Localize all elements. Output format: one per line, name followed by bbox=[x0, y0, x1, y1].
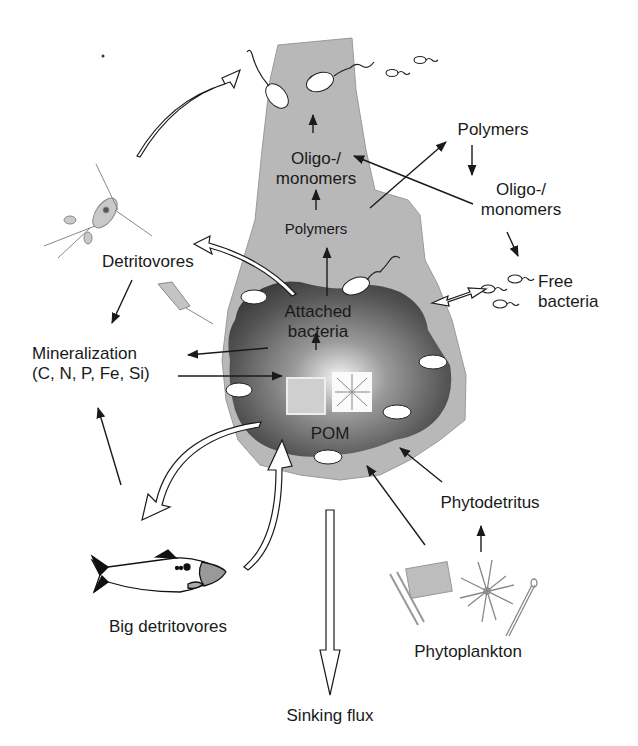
mineralization-line1: Mineralization bbox=[32, 344, 150, 364]
free-bacteria-label: Free bacteria bbox=[538, 272, 598, 312]
pom-label: POM bbox=[311, 424, 350, 444]
attached-line1: Attached bbox=[284, 302, 351, 322]
detritovores-label: Detritovores bbox=[102, 252, 194, 272]
right-oligo-line1: Oligo-/ bbox=[481, 180, 561, 200]
copepod-icon bbox=[44, 164, 152, 258]
plume-oligo-line1: Oligo-/ bbox=[276, 149, 356, 169]
right-polymers-label: Polymers bbox=[458, 120, 529, 140]
free-bacteria-line2: bacteria bbox=[538, 292, 598, 312]
marine-snow-diagram: Oligo-/ monomers Polymers Polymers Oligo… bbox=[0, 0, 638, 746]
right-oligo-line2: monomers bbox=[481, 200, 561, 220]
attached-line2: bacteria bbox=[284, 322, 351, 342]
tintinnid-icon bbox=[158, 282, 213, 324]
phytodetritus-label: Phytodetritus bbox=[440, 493, 539, 513]
mineralization-line2: (C, N, P, Fe, Si) bbox=[32, 364, 150, 384]
right-oligo-label: Oligo-/ monomers bbox=[481, 180, 561, 220]
star-diatom-icon bbox=[460, 560, 514, 622]
mineralization-label: Mineralization (C, N, P, Fe, Si) bbox=[32, 344, 150, 384]
plume-oligo-line2: monomers bbox=[276, 169, 356, 189]
big-detritovores-label: Big detritovores bbox=[109, 617, 227, 637]
phytoplankton-label: Phytoplankton bbox=[414, 642, 522, 662]
fish-icon bbox=[92, 550, 226, 592]
attached-bacteria-label: Attached bacteria bbox=[284, 302, 351, 342]
diatom-chain-icon bbox=[390, 562, 452, 625]
needle-diatom-icon bbox=[506, 579, 537, 636]
plume-polymers-label: Polymers bbox=[285, 219, 348, 239]
stray-dot bbox=[102, 55, 105, 58]
free-bacteria-line1: Free bbox=[538, 272, 598, 292]
sinking-flux-label: Sinking flux bbox=[287, 706, 374, 726]
plume-oligo-label: Oligo-/ monomers bbox=[276, 149, 356, 189]
